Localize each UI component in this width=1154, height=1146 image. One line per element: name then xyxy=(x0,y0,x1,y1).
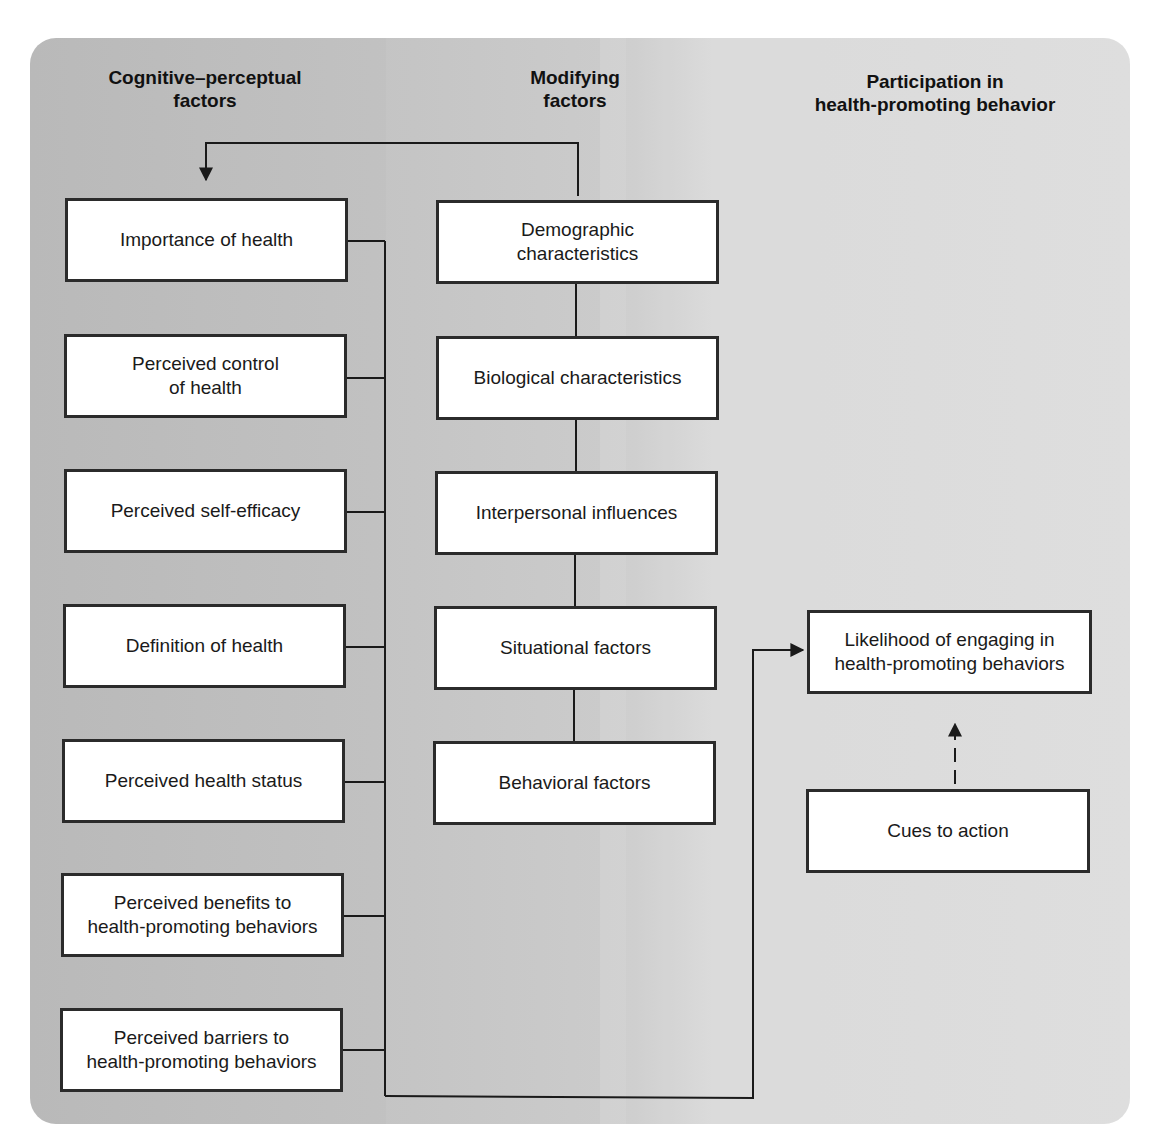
box-perceived-control-of-health: Perceived control of health xyxy=(64,334,347,418)
box-biological-characteristics: Biological characteristics xyxy=(436,336,719,420)
box-perceived-self-efficacy: Perceived self-efficacy xyxy=(64,469,347,553)
box-perceived-barriers: Perceived barriers to health-promoting b… xyxy=(60,1008,343,1092)
box-interpersonal-influences: Interpersonal influences xyxy=(435,471,718,555)
outcome-arrow xyxy=(385,650,803,1098)
connector-lines xyxy=(0,0,1154,1146)
box-perceived-benefits: Perceived benefits to health-promoting b… xyxy=(61,873,344,957)
box-situational-factors: Situational factors xyxy=(434,606,717,690)
box-perceived-health-status: Perceived health status xyxy=(62,739,345,823)
box-importance-of-health: Importance of health xyxy=(65,198,348,282)
box-definition-of-health: Definition of health xyxy=(63,604,346,688)
box-likelihood-of-engaging: Likelihood of engaging in health-promoti… xyxy=(807,610,1092,694)
cropped-caption xyxy=(0,1134,420,1146)
box-cues-to-action: Cues to action xyxy=(806,789,1090,873)
feedback-arrow xyxy=(206,143,578,196)
box-behavioral-factors: Behavioral factors xyxy=(433,741,716,825)
box-demographic-characteristics: Demographic characteristics xyxy=(436,200,719,284)
